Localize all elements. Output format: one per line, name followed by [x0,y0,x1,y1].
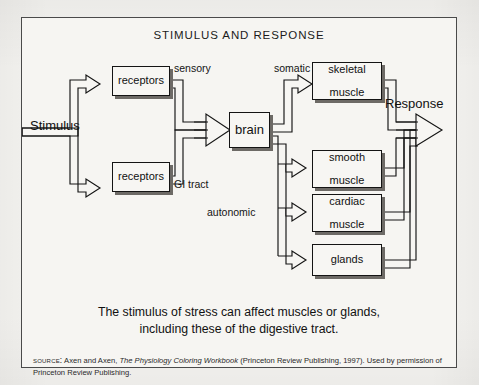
source-authors: Axen and Axen, [64,356,117,365]
node-cardiac-muscle: cardiac muscle [312,194,382,232]
skeletal-line-2: muscle [326,87,367,98]
caption-line-2: including these of the digestive tract. [22,321,456,338]
stimulus-lower-branch-arrow [22,128,100,197]
source-publication: (Princeton Review Publishing, 1997). Use… [240,356,395,365]
node-skeletal-muscle: skeletal muscle [312,62,382,100]
response-lines [396,122,418,138]
autonomic-trunk-outer [269,136,278,256]
autonomic-trunk-inner [269,144,286,256]
figure-frame: STIMULUS AND RESPONSE [21,17,457,368]
cardiac-out-outer [381,130,418,212]
smooth-out-inner [381,138,418,176]
somatic-label: somatic [274,62,310,74]
glands-out-outer [381,138,418,260]
node-skeletal-muscle-label: skeletal muscle [324,64,369,98]
cardiac-muscle-branch-arrow [278,203,306,221]
sensory-label: sensory [174,62,211,74]
figure-caption: The stimulus of stress can affect muscle… [22,304,456,339]
node-smooth-muscle-label: smooth muscle [325,152,369,186]
caption-line-1: The stimulus of stress can affect muscle… [22,304,456,321]
node-cardiac-muscle-label: cardiac muscle [325,196,368,230]
node-smooth-muscle: smooth muscle [312,150,382,188]
glands-out-inner [381,146,418,268]
stimulus-label: Stimulus [30,118,80,133]
glands-branch-arrow [278,251,306,269]
node-glands: glands [312,244,382,276]
node-receptors-bottom-label: receptors [116,171,166,182]
gi-tract-label: GI tract [174,178,208,190]
node-receptors-bottom: receptors [112,162,170,192]
source-work-title: The Physiology Coloring Workbook [119,356,238,365]
node-receptors-top-label: receptors [116,75,166,86]
brain-input-lines [194,122,208,138]
source-note: SOURCE: Axen and Axen, The Physiology Co… [33,354,447,380]
node-receptors-top: receptors [112,66,170,96]
smooth-line-1: smooth [327,152,367,163]
diagram-title: STIMULUS AND RESPONSE [22,29,456,41]
source-label: SOURCE: [33,355,62,365]
gi-path-inner [169,130,208,176]
sensory-path-inner [169,88,208,130]
brain-input-arrowhead [206,114,230,146]
node-brain: brain [229,112,270,148]
smooth-muscle-branch-arrow [278,159,306,177]
cardiac-line-2: muscle [327,219,366,230]
response-arrowhead [416,114,442,146]
diagram-connectors [22,18,458,298]
cardiac-line-1: cardiac [327,196,366,207]
skeletal-line-1: skeletal [326,64,367,75]
response-label: Response [385,96,444,111]
node-brain-label: brain [233,123,266,136]
autonomic-label: autonomic [207,206,255,218]
node-glands-label: glands [329,254,365,265]
sensory-path-outer [169,80,208,122]
cardiac-out-inner [381,138,418,220]
somatic-branch-arrow [269,75,312,132]
smooth-out-outer [381,130,418,168]
smooth-line-2: muscle [327,175,367,186]
